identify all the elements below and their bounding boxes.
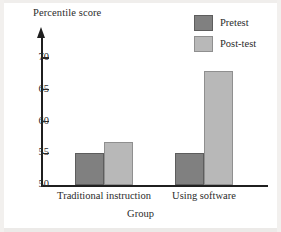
scan-edge-bottom (0, 228, 281, 232)
x-axis-line (41, 185, 268, 187)
x-axis-category-label: Traditional instruction (57, 190, 151, 201)
scan-edge-right (277, 0, 281, 232)
scan-edge-top (0, 0, 281, 3)
legend-item-post-test: Post-test (194, 33, 256, 54)
legend-swatch-post-test-icon (194, 36, 213, 52)
y-axis-title: Percentile score (33, 7, 101, 18)
legend-swatch-pretest-icon (194, 15, 213, 31)
y-axis-tick-label: 50 (29, 179, 49, 190)
y-axis-tick-label: 55 (29, 147, 49, 158)
legend-item-pretest: Pretest (194, 12, 256, 33)
bar-post-test (104, 142, 133, 185)
y-axis-tick-label: 70 (29, 52, 49, 63)
legend: Pretest Post-test (194, 12, 256, 54)
y-axis-tick-label: 65 (29, 84, 49, 95)
legend-label-pretest: Pretest (220, 17, 249, 28)
y-axis-tick-label: 60 (29, 116, 49, 127)
x-axis-category-label: Using software (172, 190, 236, 201)
scan-edge-left (0, 0, 4, 232)
x-axis-title: Group (0, 208, 281, 219)
bar-pretest (75, 153, 104, 185)
bar-pretest (175, 153, 204, 185)
bar-post-test (204, 71, 233, 185)
bar-chart-figure: Percentile score 5055606570 Traditional … (0, 0, 281, 232)
legend-label-post-test: Post-test (220, 38, 256, 49)
